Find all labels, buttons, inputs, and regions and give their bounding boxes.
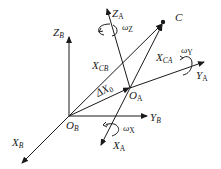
x-b-axis	[22, 116, 69, 163]
label-omega-z: ωZ	[122, 22, 133, 34]
label-x-b: XB	[11, 136, 24, 150]
omega-y-rotation-icon	[183, 57, 192, 75]
label-omega-y: ωY	[181, 45, 193, 57]
label-z-b: ZB	[53, 26, 64, 40]
label-z-a: ZA	[112, 7, 124, 21]
coordinate-frames-diagram: ZB YB XB OB ZA YA XA OA C XCB XCA ΔX0 ωZ…	[0, 0, 221, 169]
label-x-ca: XCA	[155, 51, 173, 65]
label-omega-x: ωX	[123, 123, 135, 135]
label-o-b: OB	[66, 119, 79, 133]
omega-y-arrowhead-icon	[180, 56, 183, 60]
omega-x-rotation-icon	[106, 124, 119, 136]
omega-z-arrowhead-icon	[99, 28, 103, 32]
label-point-c: C	[175, 11, 183, 23]
label-y-b: YB	[150, 111, 161, 125]
label-x-a: XA	[112, 139, 126, 153]
label-x-cb: XCB	[91, 59, 109, 73]
label-delta-x0: ΔX0	[93, 80, 116, 101]
label-o-a: OA	[129, 89, 143, 103]
label-y-a: YA	[196, 69, 208, 83]
point-c-marker	[161, 20, 165, 24]
